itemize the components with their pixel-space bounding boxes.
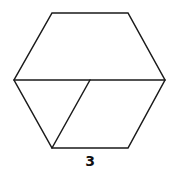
figure-label: 3 <box>85 153 95 169</box>
hexagon-diagram: 3 <box>0 0 169 170</box>
slanted-divider <box>52 80 90 148</box>
